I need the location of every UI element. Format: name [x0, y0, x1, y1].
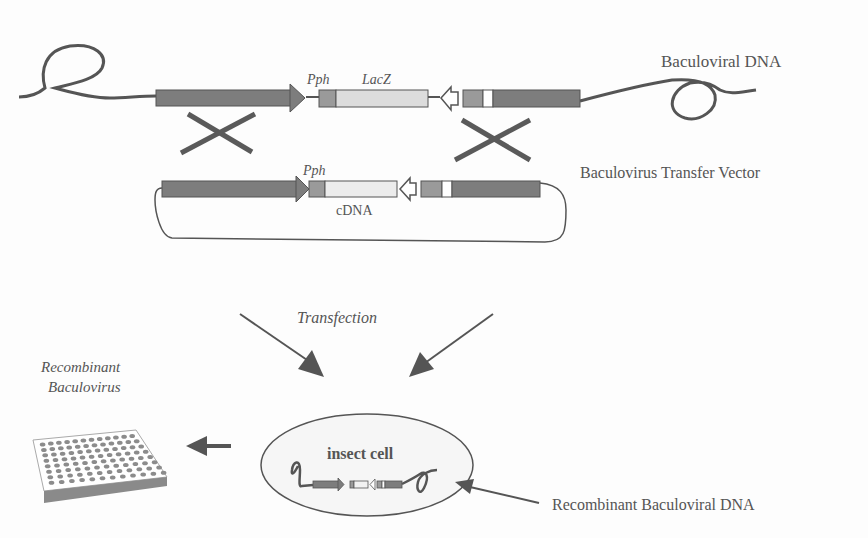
well	[69, 479, 75, 483]
well	[83, 444, 89, 448]
well	[57, 474, 63, 478]
well	[87, 472, 93, 476]
well	[126, 440, 132, 444]
well	[85, 466, 91, 470]
well	[72, 439, 78, 443]
well	[121, 435, 127, 439]
recombinant-baculoviral-dna-label: Recombinant Baculoviral DNA	[552, 496, 755, 513]
well	[41, 448, 47, 452]
well	[73, 462, 79, 466]
well	[92, 460, 98, 464]
recombinant-baculovirus-label-line1: Recombinant	[40, 359, 121, 375]
well	[117, 441, 123, 445]
transfer-vector-label: Baculovirus Transfer Vector	[580, 164, 761, 181]
well	[77, 473, 83, 477]
well	[56, 469, 62, 473]
well	[138, 456, 144, 460]
well	[147, 455, 153, 459]
well	[89, 438, 95, 442]
well	[127, 468, 133, 472]
well	[95, 449, 101, 453]
well	[152, 460, 158, 464]
well	[100, 442, 106, 446]
well	[45, 464, 51, 468]
well	[44, 459, 50, 463]
well	[42, 453, 48, 457]
well	[82, 461, 88, 465]
well	[107, 470, 113, 474]
well	[98, 454, 104, 458]
transfection-arrow-right-icon	[409, 314, 493, 377]
well	[64, 440, 70, 444]
well	[62, 457, 68, 461]
well	[71, 456, 77, 460]
well	[146, 467, 152, 471]
well	[104, 448, 110, 452]
well	[130, 474, 136, 478]
well	[77, 450, 83, 454]
transfection-label: Transfection	[297, 309, 377, 327]
polyhedrin-flank-right-block	[493, 90, 580, 107]
well	[125, 451, 131, 455]
pph-promoter-block	[319, 90, 336, 107]
well	[110, 458, 116, 462]
well	[64, 463, 70, 467]
cdna-insert-block	[325, 181, 397, 197]
well	[53, 458, 59, 462]
well	[110, 475, 116, 479]
well	[59, 480, 65, 484]
well	[100, 476, 106, 480]
well	[156, 466, 162, 470]
well	[113, 464, 119, 468]
well	[134, 439, 140, 443]
well	[142, 461, 148, 465]
insect-cell-label: insect cell	[327, 445, 394, 462]
well	[65, 468, 71, 472]
well	[60, 452, 66, 456]
well	[129, 457, 135, 461]
well	[97, 471, 103, 475]
well	[116, 452, 122, 456]
well	[79, 478, 85, 482]
well	[66, 446, 72, 450]
well	[75, 467, 81, 471]
well	[109, 442, 115, 446]
well	[75, 445, 81, 449]
well	[143, 450, 149, 454]
well	[92, 443, 98, 447]
well	[121, 446, 127, 450]
well	[46, 470, 52, 474]
gray-segment-right	[463, 90, 483, 107]
well	[137, 467, 143, 471]
well	[67, 474, 73, 478]
well	[140, 473, 146, 477]
well	[51, 453, 57, 457]
well	[69, 451, 75, 455]
well-plate-icon	[33, 430, 167, 503]
pph-promoter-vector	[309, 181, 325, 197]
lacz-gene-block	[336, 90, 428, 107]
crossover-right-icon	[455, 120, 530, 160]
well	[104, 465, 110, 469]
well	[117, 469, 123, 473]
white-segment-right	[483, 90, 493, 107]
well	[138, 445, 144, 449]
well	[90, 477, 96, 481]
well	[56, 441, 62, 445]
well	[123, 463, 129, 467]
well	[89, 455, 95, 459]
well	[54, 464, 60, 468]
well	[49, 481, 55, 485]
well	[50, 447, 56, 451]
lacz-label: LacZ	[361, 72, 391, 87]
output-arrow-icon	[186, 436, 231, 456]
well	[120, 475, 126, 479]
pph-label-vector: Pph	[302, 163, 326, 178]
well	[134, 451, 140, 455]
well	[105, 436, 111, 440]
well	[80, 456, 86, 460]
well	[113, 436, 119, 440]
recombinant-dna-pointer-arrow-icon	[455, 479, 539, 503]
pph-label-top: Pph	[306, 72, 330, 87]
cdna-label: cDNA	[336, 203, 373, 218]
